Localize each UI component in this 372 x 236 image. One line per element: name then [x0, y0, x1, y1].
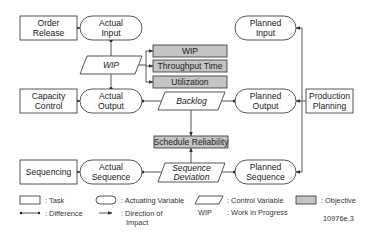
task-label: Release	[33, 28, 65, 38]
actuating-actual-output: Actual Output	[80, 89, 142, 113]
legend-abbrev: WIP	[198, 208, 212, 217]
control-label: Deviation	[174, 172, 210, 182]
task-label: Capacity	[32, 91, 66, 101]
objective-label: Throughput Time	[158, 61, 223, 71]
task-label: Control	[35, 101, 63, 111]
legend-objective-swatch	[296, 196, 316, 204]
variable-label: Output	[98, 101, 124, 111]
task-capacity-control: Capacity Control	[20, 89, 77, 113]
objective-utilization: Utilization	[153, 76, 227, 88]
task-label: Sequencing	[26, 167, 72, 177]
legend-task-swatch	[20, 196, 40, 204]
legend-actuating-label: : Actuating Variable	[121, 196, 184, 205]
objective-label: Utilization	[171, 77, 208, 87]
legend-control-swatch	[195, 196, 223, 204]
objective-throughput-time: Throughput Time	[153, 60, 227, 72]
control-label: Backlog	[176, 96, 207, 106]
control-label: WIP	[103, 60, 119, 70]
objective-label: Schedule Reliability	[154, 137, 230, 147]
task-production-planning: Production Planning	[306, 89, 353, 113]
legend-direction-label: : Direction of	[121, 209, 163, 218]
variable-label: Input	[256, 28, 276, 38]
legend-abbrev-meaning: : Work in Progress	[227, 208, 288, 217]
figure-id: 10976e.3	[323, 214, 354, 223]
task-sequencing: Sequencing	[20, 160, 77, 184]
control-loop-diagram: Order Release Capacity Control Sequencin…	[0, 0, 372, 236]
control-backlog: Backlog	[158, 92, 225, 110]
variable-label: Planned	[250, 91, 282, 101]
actuating-actual-sequence: Actual Sequence	[80, 160, 142, 184]
task-label: Planning	[313, 101, 347, 111]
objective-label: WIP	[182, 46, 198, 56]
legend-task-label: : Task	[45, 196, 64, 205]
variable-label: Planned	[250, 18, 282, 28]
variable-label: Sequence	[246, 172, 285, 182]
task-label: Order	[38, 18, 60, 28]
variable-label: Actual	[99, 162, 123, 172]
legend-difference-dot	[38, 212, 40, 214]
task-order-release: Order Release	[20, 16, 77, 40]
legend-actuating-swatch	[96, 196, 116, 204]
legend: : Task : Actuating Variable : Control Va…	[20, 196, 356, 227]
actuating-planned-output: Planned Output	[235, 89, 296, 113]
legend-difference-dot	[20, 212, 22, 214]
actuating-planned-sequence: Planned Sequence	[235, 160, 296, 184]
legend-control-label: : Control Variable	[227, 196, 284, 205]
variable-label: Output	[253, 101, 279, 111]
task-label: Production	[309, 91, 350, 101]
variable-label: Input	[101, 28, 121, 38]
control-wip: WIP	[80, 56, 142, 74]
objective-schedule-reliability: Schedule Reliability	[154, 136, 230, 148]
legend-difference-label: : Difference	[45, 209, 83, 218]
actuating-actual-input: Actual Input	[80, 16, 142, 40]
control-sequence-deviation: Sequence Deviation	[158, 163, 225, 182]
variable-label: Actual	[99, 18, 123, 28]
variable-label: Planned	[250, 162, 282, 172]
variable-label: Actual	[99, 91, 123, 101]
legend-objective-label: : Objective	[321, 196, 356, 205]
legend-direction-label: Impact	[126, 218, 148, 227]
actuating-planned-input: Planned Input	[235, 16, 296, 40]
variable-label: Sequence	[92, 172, 131, 182]
objective-wip: WIP	[153, 45, 227, 57]
